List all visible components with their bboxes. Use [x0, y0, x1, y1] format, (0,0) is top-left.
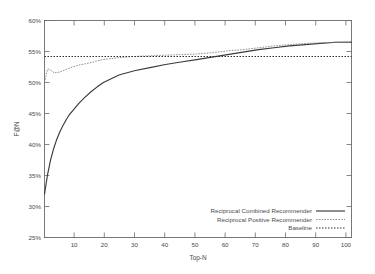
y-tick-label-50: 50%: [29, 79, 42, 86]
y-tick-label-30: 30%: [29, 203, 42, 210]
legend-label-2: Baseline: [288, 224, 312, 231]
y-axis-ticks: [45, 21, 352, 238]
chart-plot-area: 60% 55% 50% 45% 40% 35% 30% 25%: [0, 0, 375, 274]
series-group: [45, 42, 352, 195]
x-tick-label-80: 80: [282, 241, 289, 248]
series-line-reciprocal-combined-recommender: [45, 42, 352, 194]
x-tick-label-70: 70: [252, 241, 259, 248]
y-tick-label-40: 40%: [29, 141, 42, 148]
y-tick-label-25: 25%: [29, 234, 42, 241]
chart-figure: 60% 55% 50% 45% 40% 35% 30% 25%: [0, 0, 375, 274]
legend: Reciprocal Combined Recommender Reciproc…: [211, 207, 345, 231]
y-axis-title: F@N: [13, 121, 20, 136]
y-tick-label-45: 45%: [29, 110, 42, 117]
x-tick-label-50: 50: [191, 241, 198, 248]
series-line-reciprocal-positive-recommender: [45, 42, 352, 83]
x-tick-label-100: 100: [341, 241, 352, 248]
y-tick-label-55: 55%: [29, 48, 42, 55]
x-tick-label-10: 10: [71, 241, 78, 248]
x-tick-label-40: 40: [161, 241, 168, 248]
x-tick-label-20: 20: [101, 241, 108, 248]
y-tick-label-35: 35%: [29, 172, 42, 179]
y-tick-label-60: 60%: [29, 17, 42, 24]
x-tick-label-60: 60: [222, 241, 229, 248]
legend-label-1: Reciprocal Positive Recommender: [217, 216, 312, 223]
plot-frame: [45, 21, 352, 238]
x-axis-title: Top-N: [189, 254, 206, 262]
x-tick-label-90: 90: [312, 241, 319, 248]
x-tick-label-30: 30: [131, 241, 138, 248]
legend-label-0: Reciprocal Combined Recommender: [211, 207, 312, 214]
